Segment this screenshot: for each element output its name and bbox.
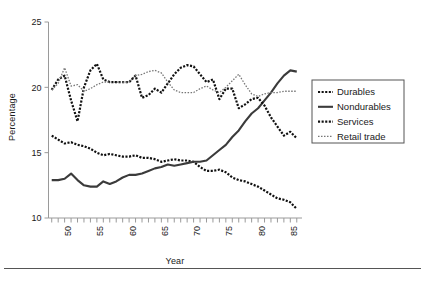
- series-layer: [52, 64, 297, 209]
- legend-layer: DurablesNondurablesServicesRetail trade: [312, 80, 404, 143]
- chart-figure: Percentage Year 101520255055606570758085…: [0, 0, 425, 283]
- x-tick-label: 60: [128, 226, 138, 236]
- y-tick-label: 10: [31, 213, 41, 223]
- x-tick-label: 80: [257, 226, 267, 236]
- x-tick-label: 70: [192, 226, 202, 236]
- x-tick-label: 75: [224, 226, 234, 236]
- y-tick-label: 25: [31, 17, 41, 27]
- legend-label: Services: [337, 116, 374, 127]
- y-tick-label: 20: [31, 83, 41, 93]
- series-line-retail-trade: [52, 68, 297, 97]
- plot-svg: 101520255055606570758085 DurablesNondura…: [0, 0, 425, 283]
- legend-label: Nondurables: [337, 101, 391, 112]
- series-line-durables: [52, 136, 297, 209]
- axis-layer: 101520255055606570758085: [31, 17, 302, 236]
- series-line-services: [52, 64, 297, 138]
- x-tick-label: 50: [63, 226, 73, 236]
- legend-label: Durables: [337, 86, 375, 97]
- y-tick-label: 15: [31, 148, 41, 158]
- legend-label: Retail trade: [337, 131, 386, 142]
- series-line-nondurables: [52, 70, 297, 186]
- x-tick-label: 55: [95, 226, 105, 236]
- x-tick-label: 65: [160, 226, 170, 236]
- x-tick-label: 85: [289, 226, 299, 236]
- bottom-divider: [4, 268, 421, 269]
